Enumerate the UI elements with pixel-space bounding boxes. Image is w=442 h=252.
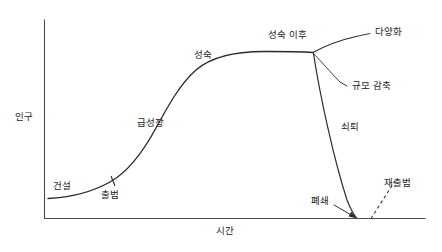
annotation-rapid-growth: 급성장 [137, 118, 164, 128]
y-axis-title: 인구 [15, 112, 33, 122]
decline-branch-curve [314, 54, 357, 219]
annotation-decline: 쇠퇴 [341, 122, 359, 132]
annotation-diversification: 다양화 [375, 27, 402, 37]
annotation-closure: 폐쇄 [311, 196, 329, 206]
lifecycle-diagram-figure: 인구 시간 건설 출범 급성장 성숙 성숙 이후 다양화 규모 감축 쇠퇴 폐쇄… [0, 0, 442, 252]
x-axis-title: 시간 [216, 226, 234, 236]
annotation-launch: 출범 [101, 190, 119, 200]
diversification-leader-line [356, 34, 370, 37]
annotation-relaunch: 재출범 [384, 178, 411, 188]
downsizing-leader-line [340, 82, 347, 86]
annotation-downsizing: 규모 감축 [352, 81, 392, 91]
annotation-maturity: 성숙 [194, 50, 212, 60]
main-lifecycle-curve [48, 51, 313, 198]
annotation-construction: 건설 [53, 181, 71, 191]
chart-canvas [0, 0, 442, 252]
annotation-post-maturity: 성숙 이후 [268, 30, 308, 40]
diversification-branch-curve [313, 37, 356, 53]
